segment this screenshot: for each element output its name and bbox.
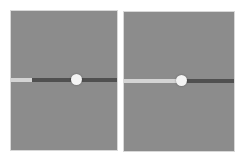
slider-fill bbox=[124, 79, 181, 83]
slider-thumb[interactable] bbox=[176, 75, 187, 86]
slider-panel-right bbox=[124, 12, 234, 151]
slider-fill bbox=[11, 78, 32, 82]
slider-right[interactable] bbox=[124, 79, 234, 83]
slider-thumb[interactable] bbox=[71, 74, 82, 85]
slider-left[interactable] bbox=[11, 78, 117, 82]
slider-panel-left bbox=[11, 11, 117, 150]
